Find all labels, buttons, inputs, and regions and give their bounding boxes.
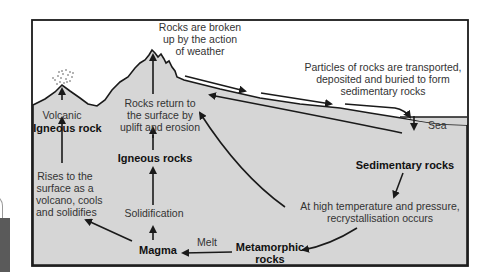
recrystallisation-label: At high temperature and pressure, recrys… <box>290 200 470 224</box>
uplift-label: Rocks return to the surface by uplift an… <box>115 97 205 133</box>
sedimentary-rocks-label: Sedimentary rocks <box>345 159 465 171</box>
weathering-label: Rocks are broken up by the action of wea… <box>145 21 255 57</box>
magma-label: Magma <box>136 244 180 256</box>
igneous-rock-label: Igneous rock <box>30 122 105 134</box>
solidification-label: Solidification <box>120 207 188 219</box>
metamorphic-rocks-label: Metamorphic rocks <box>232 241 308 265</box>
rises-label: Rises to the surface as a volcano, cools… <box>36 170 94 218</box>
transport-label: Particles of rocks are transported, depo… <box>298 61 468 97</box>
melt-label: Melt <box>192 236 222 248</box>
volcanic-label: Volcanic <box>32 109 92 121</box>
sea-label: Sea <box>428 119 447 131</box>
arrow-melt <box>183 252 232 253</box>
igneous-rocks-label: Igneous rocks <box>110 152 200 164</box>
